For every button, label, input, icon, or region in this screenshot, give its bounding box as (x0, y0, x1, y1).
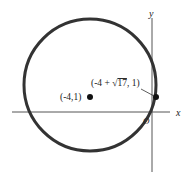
intersection-label: (-4 + √17, 1) (91, 78, 140, 89)
x-axis-label: x (175, 107, 181, 118)
y-axis-label: y (148, 8, 154, 19)
diagram-canvas: x y O (-4,1) (-4 + √17, 1) (0, 0, 195, 176)
intersection-point (153, 94, 159, 100)
origin-label: O (143, 116, 150, 126)
intersection-label-prefix: (-4 + (91, 78, 112, 89)
center-point (87, 94, 93, 100)
intersection-label-suffix: , 1) (127, 78, 140, 89)
sqrt-argument: 17 (117, 78, 127, 88)
center-label: (-4,1) (60, 92, 81, 103)
